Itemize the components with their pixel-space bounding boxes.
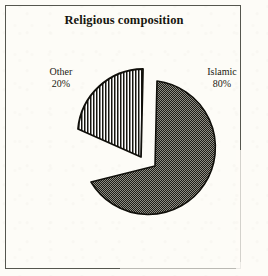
figure-page: Religious composition Other 20% xyxy=(0,0,268,276)
pie-chart xyxy=(0,0,268,276)
slice-label-other-value: 20% xyxy=(34,78,88,90)
slice-label-islamic: Islamic 80% xyxy=(194,66,250,90)
slice-label-islamic-name: Islamic xyxy=(194,66,250,78)
slice-label-other: Other 20% xyxy=(34,66,88,90)
slice-label-islamic-value: 80% xyxy=(194,78,250,90)
slice-label-other-name: Other xyxy=(34,66,88,78)
